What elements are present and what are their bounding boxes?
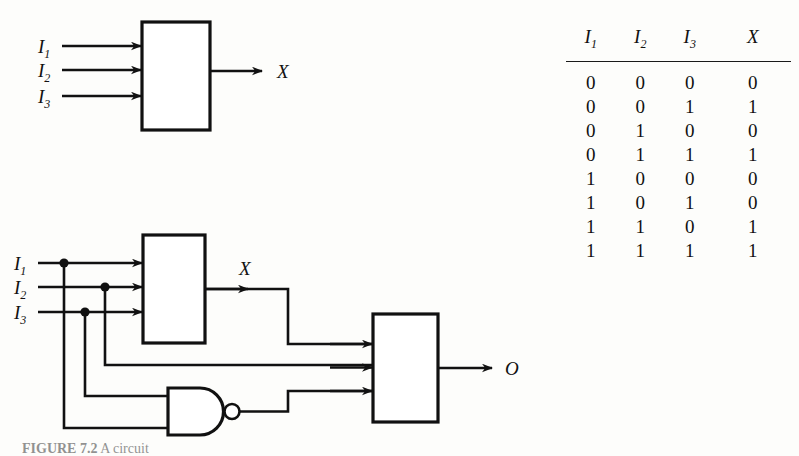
table-row: 1 1 1 1: [566, 239, 791, 263]
top-block: [142, 22, 210, 130]
bottom-input-label-1: I1: [13, 253, 26, 278]
cell-i3: 1: [665, 239, 715, 263]
cell-i1: 0: [566, 143, 616, 167]
cell-i3: 1: [665, 143, 715, 167]
cell-i1: 1: [566, 191, 616, 215]
truth-table-header-row: I1 I2 I3 X: [566, 24, 791, 61]
header-base: X: [747, 26, 759, 47]
cell-x: 1: [715, 95, 792, 119]
cell-i1: 0: [566, 61, 616, 95]
nand-gate-body: [168, 388, 224, 435]
cell-i2: 1: [616, 215, 666, 239]
truth-table-grid: I1 I2 I3 X 0 0 0 0 0 0 1 1: [566, 24, 791, 263]
header-sub: 3: [690, 37, 696, 51]
wire-x-to-block2: [205, 289, 372, 344]
bottom-block-1: [143, 235, 205, 343]
cell-i3: 0: [665, 167, 715, 191]
table-row: 0 1 1 1: [566, 143, 791, 167]
bottom-diagram: I1 I2 I3 X O: [13, 235, 519, 435]
cell-i1: 0: [566, 95, 616, 119]
cell-i1: 1: [566, 215, 616, 239]
cell-i2: 0: [616, 95, 666, 119]
header-sub: 2: [640, 37, 646, 51]
top-diagram: I1 I2 I3 X: [37, 22, 290, 130]
cell-i3: 1: [665, 191, 715, 215]
cell-i2: 0: [616, 191, 666, 215]
cell-i2: 1: [616, 143, 666, 167]
truth-table-header-x: X: [715, 24, 792, 61]
nand-gate-bubble: [225, 404, 240, 419]
top-input-label-2: I2: [37, 60, 50, 85]
table-row: 1 0 1 0: [566, 191, 791, 215]
cell-i2: 1: [616, 239, 666, 263]
top-input-label-1: I1: [37, 36, 50, 61]
cell-x: 1: [715, 143, 792, 167]
table-row: 0 1 0 0: [566, 119, 791, 143]
cell-i3: 0: [665, 215, 715, 239]
cell-x: 0: [715, 61, 792, 95]
figure-number: FIGURE 7.2: [22, 441, 97, 456]
cell-x: 0: [715, 119, 792, 143]
cell-i3: 1: [665, 95, 715, 119]
cell-i3: 0: [665, 61, 715, 95]
table-row: 0 0 1 1: [566, 95, 791, 119]
bottom-block-2: [373, 314, 438, 422]
figure-caption: FIGURE 7.2 A circuit: [22, 441, 149, 456]
cell-i1: 1: [566, 167, 616, 191]
bottom-input-label-3: I3: [13, 302, 26, 327]
table-row: 1 1 0 1: [566, 215, 791, 239]
truth-table-body: 0 0 0 0 0 0 1 1 0 1 0 0 0: [566, 61, 791, 263]
truth-table-header-i3: I3: [665, 24, 715, 61]
truth-table: I1 I2 I3 X 0 0 0 0 0 0 1 1: [566, 24, 791, 263]
cell-i2: 0: [616, 167, 666, 191]
bottom-input-label-2: I2: [13, 277, 26, 302]
cell-x: 0: [715, 191, 792, 215]
wire-nand-to-block2: [240, 391, 372, 412]
header-sub: 1: [591, 37, 597, 51]
figure-caption-text: A circuit: [97, 441, 148, 456]
cell-i1: 0: [566, 119, 616, 143]
cell-i1: 1: [566, 239, 616, 263]
table-row: 1 0 0 0: [566, 167, 791, 191]
cell-i2: 0: [616, 61, 666, 95]
figure-page: I1 I2 I3 X: [0, 0, 799, 456]
truth-table-header-i1: I1: [566, 24, 616, 61]
top-input-label-3: I3: [37, 86, 50, 111]
truth-table-head: I1 I2 I3 X: [566, 24, 791, 61]
cell-i2: 1: [616, 119, 666, 143]
cell-x: 1: [715, 215, 792, 239]
truth-table-header-i2: I2: [616, 24, 666, 61]
bottom-output-label-o: O: [505, 358, 519, 379]
cell-x: 1: [715, 239, 792, 263]
top-output-label-x: X: [276, 61, 290, 82]
bottom-intermediate-label-x: X: [238, 258, 252, 279]
cell-i3: 0: [665, 119, 715, 143]
table-row: 0 0 0 0: [566, 61, 791, 95]
cell-x: 0: [715, 167, 792, 191]
